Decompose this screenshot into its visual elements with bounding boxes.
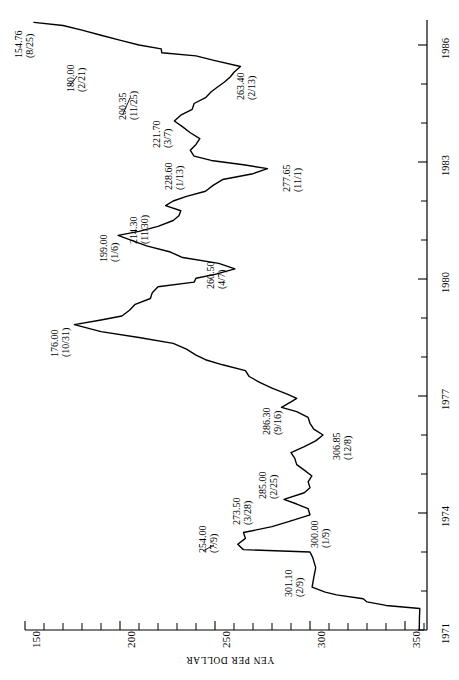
data-point-annotation: 260.50(4/7) <box>206 262 227 290</box>
annotation-date: (12/8) <box>343 433 354 461</box>
exchange-rate-line <box>34 22 420 630</box>
time-axis-tick-label: 1974 <box>440 506 451 527</box>
annotation-date: (1/6) <box>110 235 121 263</box>
annotation-value: 200.35 <box>118 91 129 120</box>
annotation-value: 301.10 <box>284 570 295 598</box>
annotation-date: (7/9) <box>209 526 220 554</box>
annotation-value: 154.76 <box>14 31 25 59</box>
annotation-date: (10/31) <box>61 328 72 357</box>
annotation-value: 228.60 <box>164 163 175 191</box>
annotation-value: 300.00 <box>310 521 321 549</box>
data-point-annotation: 306.85(12/8) <box>332 433 353 461</box>
data-point-annotation: 154.76(8/25) <box>14 31 35 59</box>
data-point-annotation: 286.30(9/16) <box>262 408 283 436</box>
annotation-value: 277.65 <box>282 165 293 193</box>
time-axis-tick-label: 1971 <box>440 623 451 644</box>
annotation-date: (4/7) <box>217 262 228 290</box>
annotation-date: (11/1) <box>293 165 304 193</box>
annotation-date: (1/9) <box>321 521 332 549</box>
annotation-date: (2/21) <box>77 65 88 93</box>
annotation-value: 221.70 <box>152 121 163 149</box>
time-axis-tick-label: 1980 <box>440 272 451 293</box>
annotation-value: 254.00 <box>198 526 209 554</box>
yen-per-dollar-chart: 150200250300350 197119741977198019831986… <box>0 0 459 680</box>
annotation-date: (3/7) <box>163 121 174 149</box>
data-point-annotation: 176.00(10/31) <box>50 328 71 357</box>
value-axis-tick-label: 350 <box>410 631 422 648</box>
annotation-value: 214.30 <box>129 215 140 244</box>
data-point-annotation: 199.00(1/6) <box>99 235 120 263</box>
data-point-annotation: 214.30(11/30) <box>129 215 150 244</box>
data-point-annotation: 180.00(2/21) <box>66 65 87 93</box>
annotation-value: 306.85 <box>332 433 343 461</box>
annotation-value: 273.50 <box>232 498 243 526</box>
annotation-value: 285.00 <box>258 472 269 500</box>
annotation-value: 176.00 <box>50 328 61 357</box>
time-axis-tick-label: 1977 <box>440 389 451 410</box>
data-point-annotation: 228.60(1/13) <box>164 163 185 191</box>
annotation-date: (2/9) <box>295 570 306 598</box>
annotation-date: (3/28) <box>243 498 254 526</box>
data-point-annotation: 300.00(1/9) <box>310 521 331 549</box>
data-point-annotation: 221.70(3/7) <box>152 121 173 149</box>
value-axis-title: YEN PER DOLLAR <box>168 655 292 665</box>
annotation-value: 260.50 <box>206 262 217 290</box>
annotation-value: 180.00 <box>66 65 77 93</box>
time-axis-tick-label: 1983 <box>440 155 451 176</box>
annotation-date: (11/30) <box>140 215 151 244</box>
value-axis-tick-label: 250 <box>220 631 232 648</box>
annotation-date: (2/25) <box>269 472 280 500</box>
annotation-date: (1/13) <box>175 163 186 191</box>
value-axis-ticks <box>25 621 424 630</box>
data-point-annotation: 273.50(3/28) <box>232 498 253 526</box>
annotation-value: 286.30 <box>262 408 273 436</box>
annotation-date: (8/25) <box>25 31 36 59</box>
data-point-annotation: 254.00(7/9) <box>198 526 219 554</box>
value-axis-tick-label: 300 <box>315 631 327 648</box>
annotation-value: 263.40 <box>236 73 247 101</box>
data-point-annotation: 301.10(2/9) <box>284 570 305 598</box>
data-point-annotation: 200.35(11/25) <box>118 91 139 120</box>
data-point-annotation: 285.00(2/25) <box>258 472 279 500</box>
time-axis-tick-label: 1986 <box>440 38 451 59</box>
data-point-annotation: 263.40(2/13) <box>236 73 257 101</box>
annotation-value: 199.00 <box>99 235 110 263</box>
time-axis-ticks <box>418 45 427 630</box>
value-axis-tick-label: 150 <box>30 631 42 648</box>
annotation-date: (11/25) <box>129 91 140 120</box>
value-axis-tick-label: 200 <box>125 631 137 648</box>
annotation-date: (2/13) <box>247 73 258 101</box>
annotation-date: (9/16) <box>273 408 284 436</box>
data-point-annotation: 277.65(11/1) <box>282 165 303 193</box>
